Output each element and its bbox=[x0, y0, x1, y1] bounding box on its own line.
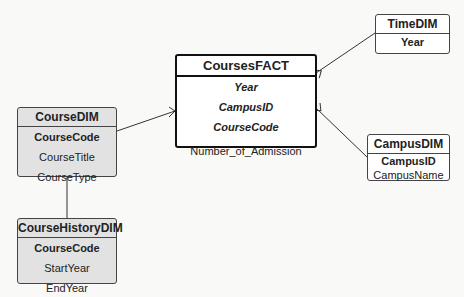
pk-coursecode: CourseCode bbox=[18, 238, 116, 258]
entity-campusdim[interactable]: CampusDIM CampusID CampusName bbox=[367, 134, 450, 181]
entity-coursesfact[interactable]: CoursesFACT Year CampusID CourseCode Num… bbox=[175, 54, 317, 148]
attr-endyear: EndYear bbox=[18, 278, 116, 297]
entity-title: TimeDIM bbox=[376, 15, 449, 34]
pk-year: Year bbox=[376, 34, 449, 50]
attr-coursetitle: CourseTitle bbox=[18, 147, 116, 167]
entity-title: CourseDIM bbox=[18, 108, 116, 127]
entity-title: CourseHistoryDIM bbox=[18, 219, 116, 238]
attr-campusname: CampusName bbox=[368, 168, 449, 182]
attr-startyear: StartYear bbox=[18, 258, 116, 278]
entity-coursedim[interactable]: CourseDIM CourseCode CourseTitle CourseT… bbox=[17, 107, 117, 177]
attr-coursetype: CourseType bbox=[18, 167, 116, 187]
entity-coursehistorydim[interactable]: CourseHistoryDIM CourseCode StartYear En… bbox=[17, 218, 117, 284]
link-timedim-fact bbox=[316, 33, 375, 73]
entity-timedim[interactable]: TimeDIM Year bbox=[375, 14, 450, 54]
link-campusdim-fact bbox=[316, 108, 367, 157]
fk-coursecode: CourseCode bbox=[177, 117, 315, 137]
pk-coursecode: CourseCode bbox=[18, 127, 116, 147]
link-coursedim-fact bbox=[117, 111, 175, 131]
entity-title: CampusDIM bbox=[368, 135, 449, 154]
pk-campusid: CampusID bbox=[368, 154, 449, 168]
fk-campusid: CampusID bbox=[177, 97, 315, 117]
entity-title: CoursesFACT bbox=[177, 56, 315, 77]
fk-year: Year bbox=[177, 77, 315, 97]
measure-number-of-admission: Number_of_Admission bbox=[177, 141, 315, 161]
